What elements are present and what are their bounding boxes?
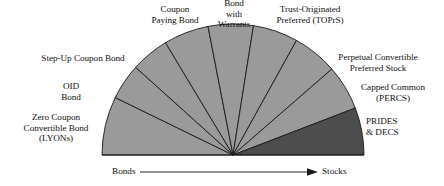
- label-trust-originated-preferred: Trust-Originated Preferred (TOPrS): [252, 4, 368, 25]
- wedge-group: [102, 24, 364, 155]
- label-oid-bond: OID Bond: [40, 81, 102, 102]
- axis-label-bonds: Bonds: [112, 166, 136, 177]
- label-step-up-coupon-bond: Step-Up Coupon Bond: [22, 53, 144, 64]
- label-prides-and-decs: PRIDES & DECS: [366, 116, 440, 137]
- label-perpetual-convertible-preferred-stock: Perpetual Convertible Preferred Stock: [316, 52, 440, 73]
- fan-diagram-figure: Coupon Paying Bond Bond with Warrants Tr…: [0, 0, 444, 186]
- label-capped-common-percs: Capped Common (PERCS): [344, 82, 442, 103]
- label-zero-coupon-convertible-bond-lyons: Zero Coupon Convertible Bond (LYONs): [2, 112, 110, 144]
- axis-arrow-group: [140, 168, 318, 176]
- axis-arrow-head: [307, 168, 318, 176]
- axis-label-stocks: Stocks: [322, 166, 347, 177]
